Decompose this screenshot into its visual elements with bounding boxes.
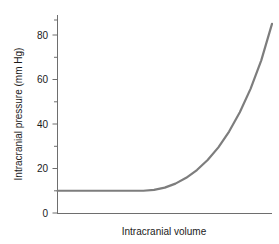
y-tick-label-40: 40	[37, 119, 49, 130]
y-axis-minor-ticks	[54, 20, 58, 191]
y-tick-label-80: 80	[37, 30, 49, 41]
x-axis-title: Intracranial volume	[122, 226, 207, 237]
y-tick-label-0: 0	[42, 208, 48, 219]
y-axis-major-ticks	[53, 35, 58, 213]
y-tick-label-60: 60	[37, 74, 49, 85]
y-tick-label-20: 20	[37, 163, 49, 174]
chart-figure: 0 20 40 60 80 Intracranial pressure (mm …	[0, 0, 279, 244]
y-axis-title: Intracranial pressure (mm Hg)	[13, 48, 24, 181]
pressure-volume-chart: 0 20 40 60 80 Intracranial pressure (mm …	[0, 0, 279, 244]
